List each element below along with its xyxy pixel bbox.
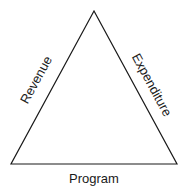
triangle-diagram: Revenue Expenditure Program [0, 0, 187, 194]
label-program: Program [69, 171, 119, 186]
label-expenditure: Expenditure [129, 51, 175, 119]
triangle-diagram-svg: Revenue Expenditure Program [0, 0, 187, 194]
label-revenue: Revenue [17, 53, 55, 106]
